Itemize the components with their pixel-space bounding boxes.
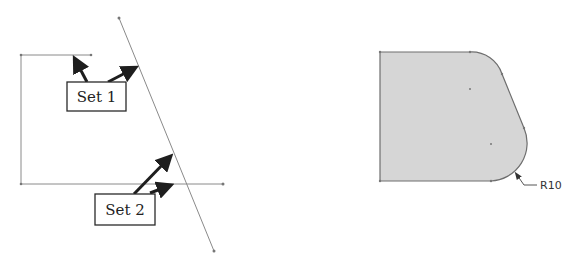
set1-label: Set 1 (67, 82, 126, 111)
filleted-profile[interactable] (380, 52, 527, 181)
right-figure: R10 (379, 51, 562, 192)
radius-label: R10 (540, 179, 562, 192)
arc-center-point (490, 143, 492, 145)
endpoint (118, 17, 121, 20)
vertex (490, 180, 492, 182)
endpoint (222, 183, 225, 186)
vertex (469, 51, 471, 53)
endpoint (90, 54, 93, 57)
radius-dimension[interactable]: R10 (517, 175, 562, 192)
arc-center-point (469, 88, 471, 90)
diagram-canvas: Set 1 Set 2 R10 (0, 0, 576, 266)
set2-arrow-bottom (150, 187, 166, 193)
endpoint (20, 183, 23, 186)
vertex (523, 127, 525, 129)
set2-text: Set 2 (105, 201, 145, 219)
vertex (379, 51, 381, 53)
vertex (379, 180, 381, 182)
set2-label: Set 2 (95, 194, 155, 225)
set1-text: Set 1 (77, 88, 117, 106)
vertex (501, 73, 503, 75)
endpoint (20, 54, 23, 57)
set1-arrow-top (77, 63, 87, 82)
left-figure: Set 1 Set 2 (20, 17, 225, 253)
set1-arrow-diagonal (108, 70, 131, 82)
endpoint (213, 250, 216, 253)
dimension-leader (517, 175, 537, 185)
